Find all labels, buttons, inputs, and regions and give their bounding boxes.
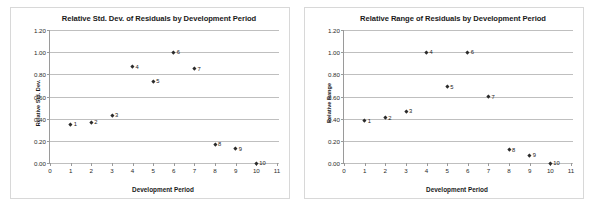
data-point: 9 — [234, 147, 238, 151]
data-point-marker-icon — [486, 95, 490, 99]
data-point-label: 1 — [74, 122, 77, 126]
y-tick-mark — [47, 119, 50, 120]
data-point-marker-icon — [110, 113, 114, 117]
x-tick-label: 4 — [131, 167, 134, 174]
x-tick-mark — [277, 163, 278, 166]
gridline — [50, 97, 279, 98]
gridline — [344, 141, 573, 142]
data-point: 8 — [213, 142, 217, 146]
data-point: 10 — [254, 161, 258, 165]
x-tick-label: 5 — [445, 167, 448, 174]
x-tick-label: 5 — [151, 167, 154, 174]
data-point-label: 3 — [115, 113, 118, 117]
gridline — [50, 119, 279, 120]
y-tick-label: 0.20 — [328, 137, 340, 144]
data-point-marker-icon — [425, 50, 429, 54]
data-point-label: 2 — [388, 116, 391, 120]
y-tick-mark — [47, 30, 50, 31]
x-tick-mark — [50, 163, 51, 166]
data-point-marker-icon — [404, 109, 408, 113]
gridline — [344, 30, 573, 31]
x-tick-mark — [509, 163, 510, 166]
x-tick-mark — [385, 163, 386, 166]
x-tick-label: 6 — [466, 167, 469, 174]
x-tick-label: 7 — [487, 167, 490, 174]
y-tick-label: 1.20 — [328, 27, 340, 34]
data-point-marker-icon — [69, 122, 73, 126]
x-tick-mark — [236, 163, 237, 166]
data-point-marker-icon — [254, 161, 258, 165]
x-axis-title: Development Period — [343, 186, 571, 193]
data-point-label: 5 — [156, 79, 159, 83]
gridline — [50, 141, 279, 142]
x-tick-label: 0 — [48, 167, 51, 174]
gridline — [344, 74, 573, 75]
data-point-marker-icon — [528, 153, 532, 157]
x-tick-label: 10 — [253, 167, 260, 174]
data-point-label: 7 — [491, 95, 494, 99]
y-tick-label: 0.20 — [34, 137, 46, 144]
data-point-marker-icon — [151, 79, 155, 83]
data-point: 5 — [151, 79, 155, 83]
y-tick-label: 0.80 — [34, 71, 46, 78]
y-tick-mark — [341, 52, 344, 53]
data-point-label: 4 — [136, 65, 139, 69]
x-tick-label: 8 — [213, 167, 216, 174]
scatter-chart-figure: Relative Std. Dev. of Residuals by Devel… — [0, 0, 590, 214]
x-tick-mark — [71, 163, 72, 166]
data-point: 2 — [383, 116, 387, 120]
data-point-label: 1 — [368, 119, 371, 123]
y-tick-label: 0.60 — [34, 93, 46, 100]
data-point: 2 — [89, 120, 93, 124]
data-point-marker-icon — [507, 148, 511, 152]
data-point-marker-icon — [445, 85, 449, 89]
gridline — [50, 30, 279, 31]
data-point: 4 — [131, 65, 135, 69]
data-point-marker-icon — [466, 50, 470, 54]
x-tick-label: 7 — [193, 167, 196, 174]
y-tick-label: 0.40 — [328, 115, 340, 122]
data-point-marker-icon — [89, 120, 93, 124]
x-tick-label: 2 — [90, 167, 93, 174]
gridline — [344, 163, 573, 164]
data-point-label: 7 — [197, 67, 200, 71]
x-tick-label: 4 — [425, 167, 428, 174]
x-tick-mark — [447, 163, 448, 166]
chart-title: Relative Range of Residuals by Developme… — [305, 14, 583, 23]
data-point: 1 — [69, 122, 73, 126]
x-tick-mark — [427, 163, 428, 166]
y-tick-mark — [341, 30, 344, 31]
data-point-marker-icon — [383, 116, 387, 120]
gridline — [50, 163, 279, 164]
y-tick-label: 1.00 — [34, 49, 46, 56]
data-point: 5 — [445, 85, 449, 89]
y-tick-label: 0.60 — [328, 93, 340, 100]
x-tick-label: 11 — [274, 167, 280, 174]
plot-area: 0.000.200.400.600.801.001.20012345678910… — [49, 30, 277, 164]
x-tick-mark — [194, 163, 195, 166]
data-point-label: 6 — [177, 50, 180, 54]
data-point-marker-icon — [363, 119, 367, 123]
data-point-marker-icon — [192, 67, 196, 71]
y-tick-mark — [341, 119, 344, 120]
data-point: 4 — [425, 50, 429, 54]
data-point-label: 6 — [471, 50, 474, 54]
x-tick-label: 3 — [110, 167, 113, 174]
y-tick-mark — [341, 74, 344, 75]
x-axis-title: Development Period — [49, 186, 277, 193]
x-tick-label: 10 — [547, 167, 554, 174]
x-tick-mark — [571, 163, 572, 166]
y-tick-mark — [47, 97, 50, 98]
data-point-label: 4 — [430, 50, 433, 54]
x-tick-label: 1 — [363, 167, 366, 174]
y-tick-label: 0.00 — [328, 160, 340, 167]
y-tick-mark — [47, 52, 50, 53]
chart-panel-relative-range: Relative Range of Residuals by Developme… — [304, 7, 584, 199]
data-point-marker-icon — [234, 147, 238, 151]
data-point-marker-icon — [548, 161, 552, 165]
data-point-label: 8 — [218, 142, 221, 146]
plot-area: 0.000.200.400.600.801.001.20012345678910… — [343, 30, 571, 164]
x-tick-mark — [344, 163, 345, 166]
gridline — [344, 119, 573, 120]
data-point: 3 — [404, 109, 408, 113]
